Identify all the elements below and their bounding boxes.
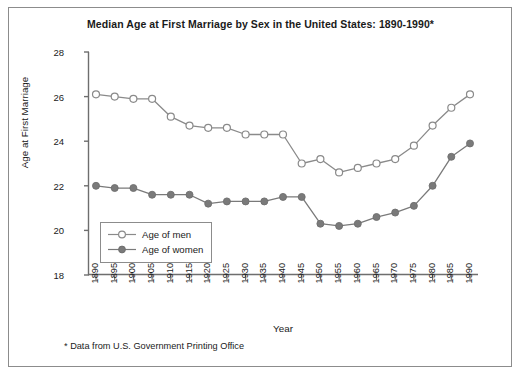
legend-item-age-of-women: Age of women	[108, 242, 203, 257]
data-point	[167, 113, 174, 120]
x-tick-label: 1920	[202, 263, 212, 307]
x-tick-label: 1990	[464, 263, 474, 307]
data-point	[298, 193, 305, 200]
x-tick-label: 1925	[221, 263, 231, 307]
y-tick-label: 28	[42, 47, 64, 58]
y-tick-label: 26	[42, 91, 64, 102]
data-point	[205, 124, 212, 131]
x-tick-label: 1955	[333, 263, 343, 307]
x-tick-label: 1930	[240, 263, 250, 307]
data-point	[149, 191, 156, 198]
chart-figure: Median Age at First Marriage by Sex in t…	[0, 0, 521, 375]
data-point	[336, 169, 343, 176]
data-point	[448, 104, 455, 111]
data-point	[448, 153, 455, 160]
data-point	[429, 182, 436, 189]
data-point	[242, 131, 249, 138]
data-point	[223, 124, 230, 131]
data-point	[392, 209, 399, 216]
data-point	[373, 214, 380, 221]
chart-footnote: * Data from U.S. Government Printing Off…	[64, 341, 244, 351]
data-point	[467, 140, 474, 147]
x-tick-label: 1910	[165, 263, 175, 307]
x-tick-label: 1890	[90, 263, 100, 307]
x-tick-label: 1945	[296, 263, 306, 307]
x-tick-label: 1970	[389, 263, 399, 307]
x-tick-label: 1950	[314, 263, 324, 307]
legend-label-age-of-men: Age of men	[142, 229, 191, 240]
y-tick-label: 20	[42, 225, 64, 236]
x-tick-label: 1905	[146, 263, 156, 307]
data-point	[392, 156, 399, 163]
data-point	[261, 198, 268, 205]
x-tick-label: 1960	[352, 263, 362, 307]
data-point	[317, 220, 324, 227]
data-point	[410, 142, 417, 149]
x-axis-tick-labels: 1890189519001905191019151920192519301935…	[88, 279, 478, 323]
y-axis-title: Age at First Marriage	[19, 23, 30, 223]
y-tick-label: 24	[42, 136, 64, 147]
x-axis-title: Year	[88, 323, 478, 334]
data-point	[111, 93, 118, 100]
y-tick-label: 22	[42, 180, 64, 191]
legend-marker-open-circle-icon	[108, 228, 136, 241]
x-tick-label: 1895	[109, 263, 119, 307]
data-point	[93, 91, 100, 98]
data-point	[261, 131, 268, 138]
data-point	[354, 164, 361, 171]
legend-label-age-of-women: Age of women	[142, 244, 203, 255]
data-point	[410, 202, 417, 209]
data-point	[186, 191, 193, 198]
data-point	[223, 198, 230, 205]
data-point	[186, 122, 193, 129]
data-point	[205, 200, 212, 207]
x-tick-label: 1965	[371, 263, 381, 307]
x-tick-label: 1985	[445, 263, 455, 307]
data-point	[242, 198, 249, 205]
x-tick-label: 1940	[277, 263, 287, 307]
data-point	[429, 122, 436, 129]
series-age-of-women	[93, 140, 474, 230]
x-tick-label: 1980	[427, 263, 437, 307]
legend-marker-filled-circle-icon	[108, 243, 136, 256]
data-point	[354, 220, 361, 227]
chart-legend: Age of men Age of women	[100, 222, 212, 263]
data-point	[93, 182, 100, 189]
x-tick-label: 1975	[408, 263, 418, 307]
data-point	[149, 95, 156, 102]
data-point	[280, 193, 287, 200]
data-point	[167, 191, 174, 198]
chart-title: Median Age at First Marriage by Sex in t…	[0, 18, 521, 30]
data-point	[111, 185, 118, 192]
data-point	[130, 95, 137, 102]
data-point	[280, 131, 287, 138]
y-axis-tick-labels: 282624222018	[40, 52, 64, 275]
x-tick-label: 1935	[258, 263, 268, 307]
data-point	[373, 160, 380, 167]
data-point	[467, 91, 474, 98]
series-age-of-men	[93, 91, 474, 176]
data-point	[130, 185, 137, 192]
data-point	[336, 222, 343, 229]
data-point	[298, 160, 305, 167]
x-tick-label: 1900	[127, 263, 137, 307]
legend-item-age-of-men: Age of men	[108, 227, 203, 242]
y-tick-label: 18	[42, 270, 64, 281]
x-tick-label: 1915	[184, 263, 194, 307]
data-point	[317, 156, 324, 163]
